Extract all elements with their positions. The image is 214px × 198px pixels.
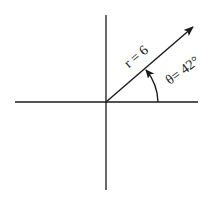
angle-label: θ= 42° <box>163 53 202 87</box>
polar-diagram: r = 6 θ= 42° <box>0 0 214 198</box>
angle-arc-arrow <box>146 70 158 102</box>
